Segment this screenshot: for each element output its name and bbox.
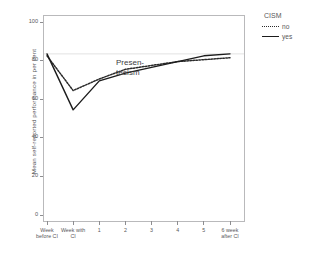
legend-item-label: no (282, 23, 289, 30)
legend-title: CISM (264, 12, 317, 19)
x-tick-mark (203, 221, 204, 225)
plot-lines (44, 16, 244, 221)
legend-line-icon-solid (262, 33, 279, 40)
x-tick-mark (47, 221, 48, 225)
legend-item-label: yes (282, 33, 292, 40)
legend-item-yes[interactable]: yes (262, 32, 317, 41)
legend-line-icon-dotted (262, 23, 279, 30)
annotation-line: Presen- (116, 58, 144, 68)
annotation-line: teeism (116, 68, 144, 78)
x-tick-label-line: after CI (221, 233, 238, 239)
y-tick-label: 80 (32, 56, 38, 62)
legend-entries: noyes (262, 22, 317, 41)
x-tick-label-line: before CI (36, 233, 58, 239)
y-axis-title: Mean self-reported performance in per ce… (30, 17, 37, 207)
x-tick-mark (125, 221, 126, 225)
x-tick-mark (230, 221, 231, 225)
x-tick-label: 4 (176, 227, 179, 233)
x-tick-label: 1 (98, 227, 101, 233)
y-tick-label: 20 (32, 172, 38, 178)
presenteeism-annotation: Presen-teeism (116, 58, 144, 77)
x-tick-label: 6 weekafter CI (221, 227, 238, 239)
x-tick-mark (177, 221, 178, 225)
y-tick-label: 100 (29, 18, 38, 24)
plot-area: Presen-teeism (43, 15, 245, 222)
x-tick-label-line: 3 (150, 227, 153, 233)
x-tick-label-line: 5 (202, 227, 205, 233)
x-tick-label: Weekbefore CI (36, 227, 58, 239)
x-tick-label: 3 (150, 227, 153, 233)
x-tick-label-line: 1 (98, 227, 101, 233)
x-tick-mark (99, 221, 100, 225)
x-tick-mark (151, 221, 152, 225)
x-tick-label: 2 (124, 227, 127, 233)
y-tick-label: 40 (32, 133, 38, 139)
x-tick-mark (73, 221, 74, 225)
x-tick-label-line: CI (61, 233, 85, 239)
x-tick-label-line: 4 (176, 227, 179, 233)
legend: CISM noyes (262, 12, 317, 42)
y-tick-label: 0 (35, 211, 38, 217)
x-tick-label: Week withCI (61, 227, 85, 239)
chart-figure: Mean self-reported performance in per ce… (0, 0, 319, 260)
x-tick-label-line: 2 (124, 227, 127, 233)
y-tick-label: 60 (32, 95, 38, 101)
x-tick-label: 5 (202, 227, 205, 233)
legend-item-no[interactable]: no (262, 22, 317, 31)
